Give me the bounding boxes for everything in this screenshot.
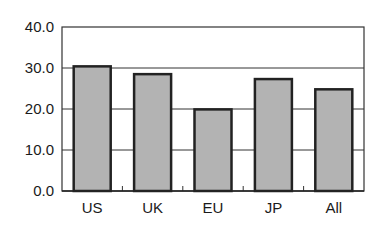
x-tick-label: US [82, 199, 103, 216]
bar-eu [195, 109, 232, 191]
bar-jp [255, 79, 292, 191]
bar-chart: 0.010.020.030.040.0 USUKEUJPAll [0, 0, 375, 231]
bars [74, 66, 353, 191]
x-axis-labels: USUKEUJPAll [82, 199, 342, 216]
bar-all [315, 89, 352, 191]
x-tick-label: UK [142, 199, 163, 216]
y-tick-label: 30.0 [25, 59, 54, 76]
y-tick-label: 10.0 [25, 141, 54, 158]
x-tick-label: All [325, 199, 342, 216]
y-axis-labels: 0.010.020.030.040.0 [25, 18, 54, 199]
bar-us [74, 66, 111, 191]
bar-uk [134, 74, 171, 191]
x-tick-label: EU [203, 199, 224, 216]
y-tick-label: 0.0 [33, 182, 54, 199]
y-tick-label: 20.0 [25, 100, 54, 117]
y-tick-label: 40.0 [25, 18, 54, 35]
x-tick-label: JP [265, 199, 283, 216]
